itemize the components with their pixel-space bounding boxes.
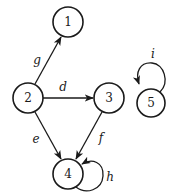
node-3: 3 xyxy=(94,83,124,113)
edge-label-h: h xyxy=(106,170,114,184)
edge-label-i: i xyxy=(151,47,155,61)
node-label: 1 xyxy=(64,15,72,29)
edge-label-e: e xyxy=(32,132,39,146)
node-label: 4 xyxy=(64,167,72,181)
node-label: 2 xyxy=(24,91,32,105)
node-5: 5 xyxy=(137,89,165,117)
edge-label-d: d xyxy=(59,80,67,94)
graph-diagram: 1 2 3 4 5 g d e f h i xyxy=(0,0,177,196)
edge-i-self-loop xyxy=(138,63,165,92)
node-4: 4 xyxy=(53,159,83,189)
node-label: 5 xyxy=(147,96,155,110)
node-label: 3 xyxy=(105,91,113,105)
node-1: 1 xyxy=(53,7,83,37)
edge-label-f: f xyxy=(98,131,106,145)
node-2: 2 xyxy=(13,83,43,113)
edge-label-g: g xyxy=(33,53,41,67)
